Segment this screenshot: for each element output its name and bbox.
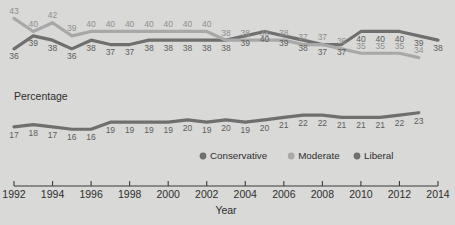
chart-root: 4340423940404040404040383838383737363535… bbox=[0, 0, 455, 225]
value-label-liberal: 21 bbox=[356, 120, 366, 130]
value-label-moderate: 40 bbox=[86, 19, 96, 29]
x-axis-tick-label: 2010 bbox=[349, 188, 373, 200]
legend-swatch-liberal bbox=[354, 153, 361, 160]
value-label-conservative: 39 bbox=[279, 38, 289, 48]
value-label-conservative: 38 bbox=[48, 43, 58, 53]
value-label-moderate: 40 bbox=[163, 19, 173, 29]
value-label-liberal: 17 bbox=[9, 130, 19, 140]
x-axis-title: Year bbox=[215, 204, 237, 216]
value-label-liberal: 21 bbox=[375, 120, 385, 130]
value-label-moderate: 37 bbox=[298, 32, 308, 42]
value-label-conservative: 37 bbox=[125, 47, 135, 57]
value-label-liberal: 21 bbox=[279, 120, 289, 130]
x-axis-tick-label: 1998 bbox=[118, 188, 142, 200]
legend-item-moderate[interactable]: Moderate bbox=[288, 150, 340, 161]
x-axis-tick-label: 2012 bbox=[388, 188, 412, 200]
y-axis-title: Percentage bbox=[14, 90, 68, 102]
value-label-liberal: 16 bbox=[67, 132, 77, 142]
value-label-moderate: 38 bbox=[221, 28, 231, 38]
legend-label-liberal: Liberal bbox=[364, 150, 393, 161]
x-axis-tick-label: 1996 bbox=[79, 188, 103, 200]
value-label-moderate: 39 bbox=[67, 23, 77, 33]
value-label-conservative: 37 bbox=[318, 47, 328, 57]
value-label-liberal: 18 bbox=[29, 128, 39, 138]
value-label-liberal: 19 bbox=[144, 125, 154, 135]
x-axis-tick-label: 2014 bbox=[426, 188, 450, 200]
value-label-liberal: 16 bbox=[86, 132, 96, 142]
value-label-moderate: 40 bbox=[202, 19, 212, 29]
legend-item-conservative[interactable]: Conservative bbox=[200, 150, 268, 161]
x-axis-tick-label: 2002 bbox=[195, 188, 219, 200]
value-label-moderate: 37 bbox=[318, 32, 328, 42]
value-label-liberal: 21 bbox=[337, 120, 347, 130]
value-label-liberal: 22 bbox=[318, 118, 328, 128]
value-label-conservative: 37 bbox=[106, 47, 116, 57]
value-label-liberal: 17 bbox=[48, 130, 58, 140]
value-label-liberal: 19 bbox=[202, 125, 212, 135]
value-label-conservative: 36 bbox=[9, 51, 19, 61]
value-label-moderate: 40 bbox=[183, 19, 193, 29]
value-label-liberal: 19 bbox=[125, 125, 135, 135]
x-axis-tick-label: 1992 bbox=[2, 188, 26, 200]
legend-item-liberal[interactable]: Liberal bbox=[354, 150, 394, 161]
value-label-conservative: 38 bbox=[163, 43, 173, 53]
value-label-liberal: 23 bbox=[414, 116, 424, 126]
legend-label-moderate: Moderate bbox=[298, 150, 340, 161]
value-label-conservative: 40 bbox=[260, 34, 270, 44]
value-label-moderate: 42 bbox=[48, 10, 58, 20]
x-axis-tick-label: 2004 bbox=[234, 188, 258, 200]
line-chart-canvas: 4340423940404040404040383838383737363535… bbox=[0, 0, 455, 225]
value-label-conservative: 38 bbox=[202, 43, 212, 53]
value-label-moderate: 40 bbox=[144, 19, 154, 29]
value-label-liberal: 20 bbox=[221, 123, 231, 133]
value-label-moderate: 38 bbox=[241, 28, 251, 38]
value-label-liberal: 19 bbox=[106, 125, 116, 135]
value-label-moderate: 38 bbox=[279, 28, 289, 38]
value-label-conservative: 38 bbox=[433, 43, 443, 53]
value-label-conservative: 38 bbox=[183, 43, 193, 53]
value-label-moderate: 40 bbox=[125, 19, 135, 29]
value-label-conservative: 40 bbox=[395, 34, 405, 44]
legend-label-conservative: Conservative bbox=[210, 150, 268, 161]
x-axis-tick-label: 2000 bbox=[157, 188, 181, 200]
value-label-conservative: 38 bbox=[144, 43, 154, 53]
value-label-conservative: 36 bbox=[67, 51, 77, 61]
value-label-moderate: 40 bbox=[29, 19, 39, 29]
value-label-liberal: 22 bbox=[395, 118, 405, 128]
value-label-conservative: 37 bbox=[337, 47, 347, 57]
value-label-conservative: 38 bbox=[298, 43, 308, 53]
value-label-moderate: 36 bbox=[337, 36, 347, 46]
value-label-conservative: 38 bbox=[221, 43, 231, 53]
value-label-conservative: 39 bbox=[241, 38, 251, 48]
value-label-liberal: 20 bbox=[260, 123, 270, 133]
value-label-liberal: 20 bbox=[183, 123, 193, 133]
value-label-liberal: 22 bbox=[298, 118, 308, 128]
value-label-conservative: 39 bbox=[414, 38, 424, 48]
legend-swatch-moderate bbox=[288, 153, 295, 160]
value-label-conservative: 40 bbox=[375, 34, 385, 44]
value-label-conservative: 39 bbox=[29, 38, 39, 48]
value-label-moderate: 43 bbox=[9, 6, 19, 16]
value-label-conservative: 40 bbox=[356, 34, 366, 44]
x-axis-tick-label: 2008 bbox=[311, 188, 335, 200]
x-axis-tick-label: 2006 bbox=[272, 188, 296, 200]
legend-swatch-conservative bbox=[200, 153, 207, 160]
x-axis-tick-label: 1994 bbox=[41, 188, 65, 200]
value-label-liberal: 19 bbox=[241, 125, 251, 135]
value-label-moderate: 40 bbox=[106, 19, 116, 29]
value-label-liberal: 19 bbox=[163, 125, 173, 135]
value-label-conservative: 38 bbox=[86, 43, 96, 53]
